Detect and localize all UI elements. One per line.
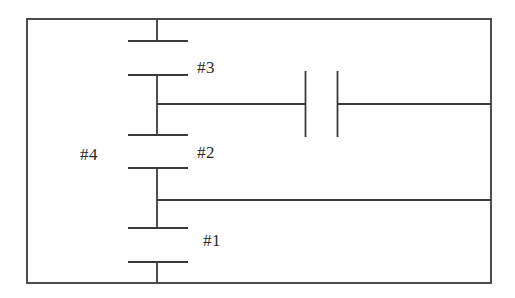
node-label-1: #1 [203, 231, 221, 251]
circuit-diagram-figure: #4 #3 #2 #1 [0, 0, 515, 298]
node-label-2: #2 [197, 143, 215, 163]
node-label-4: #4 [80, 145, 98, 165]
node-label-3: #3 [197, 58, 215, 78]
circuit-schematic-canvas [0, 0, 515, 298]
